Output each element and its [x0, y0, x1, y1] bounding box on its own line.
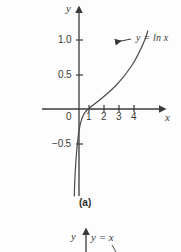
figure-b-line-label: y = x: [91, 232, 114, 243]
x-tick-label-0: 0: [66, 112, 71, 122]
y-tick-label-1: 1.0: [58, 35, 71, 45]
x-tick-label-3: 3: [116, 112, 121, 122]
figure-panel-a: y x 1.0 0.5 −0.5 0 1 2 3 4 y = ln x (a) …: [0, 0, 181, 252]
x-axis-label: x: [165, 112, 170, 123]
curve-annotation-ln-x: y = ln x: [136, 33, 169, 43]
curve-label-leader: [116, 39, 131, 42]
y-tick-label-minus0point5: −0.5: [52, 139, 71, 149]
figure-b-y-axis-label: y: [71, 231, 76, 242]
figure-caption-a: (a): [79, 198, 91, 208]
y-tick-label-0point5: 0.5: [58, 70, 71, 80]
x-tick-label-4: 4: [131, 112, 136, 122]
x-tick-label-1: 1: [86, 112, 91, 122]
x-tick-label-2: 2: [101, 112, 106, 122]
y-axis-label: y: [66, 3, 71, 14]
